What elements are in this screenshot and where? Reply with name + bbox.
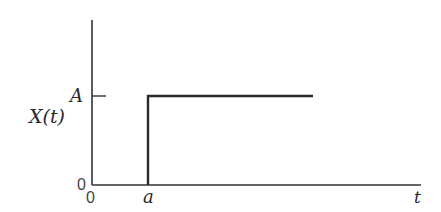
x-axis-label: t xyxy=(414,187,421,207)
step-position-label: a xyxy=(143,186,154,207)
step-function-diagram: X(t) A 0 0 a t xyxy=(0,0,441,212)
y-axis-label: X(t) xyxy=(27,105,65,127)
x-origin-label: 0 xyxy=(86,189,95,206)
step-function-line xyxy=(148,96,313,185)
y-level-label: A xyxy=(68,85,83,106)
y-origin-label: 0 xyxy=(77,176,86,193)
